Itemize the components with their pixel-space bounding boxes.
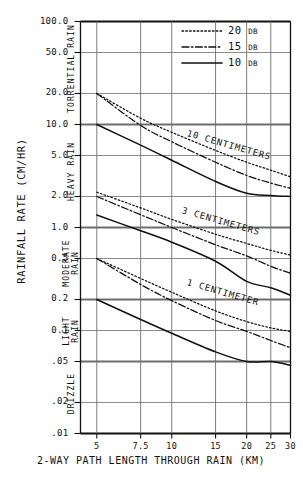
legend-entry: 20 DB: [228, 24, 258, 36]
x-tick-label: 30: [276, 441, 303, 451]
rain-category-label: DRIZZLE: [67, 333, 76, 453]
data-curve: [97, 259, 291, 332]
chart-figure: RAINFALL RATE (CM/HR) 2-WAY PATH LENGTH …: [0, 0, 302, 480]
y-tick-label: 50.0: [29, 47, 69, 57]
rain-category-label: TORRENTIAL RAIN: [67, 9, 76, 129]
y-tick-label: .01: [29, 428, 69, 438]
plot-canvas: [0, 0, 302, 480]
legend-entry: 15 DB: [228, 40, 258, 52]
x-tick-label: 10: [157, 441, 187, 451]
y-tick-label: 100.0: [29, 16, 69, 26]
legend-value: 10: [228, 56, 241, 68]
x-tick-label: 15: [201, 441, 231, 451]
y-tick-label: 2.0: [29, 190, 69, 200]
x-tick-label: 7.5: [126, 441, 156, 451]
data-curve: [97, 192, 291, 255]
y-tick-label: 5.0: [29, 150, 69, 160]
legend-entry: 10 DB: [228, 56, 258, 68]
legend-unit: DB: [248, 43, 258, 52]
legend-value: 15: [228, 40, 241, 52]
legend-value: 20: [228, 24, 241, 36]
y-tick-label: .02: [29, 396, 69, 406]
y-tick-label: 10.0: [29, 119, 69, 129]
legend-unit: DB: [248, 27, 258, 36]
data-curve: [97, 299, 291, 365]
y-tick-label: 20.0: [29, 87, 69, 97]
x-tick-label: 5: [82, 441, 112, 451]
legend-unit: DB: [248, 59, 258, 68]
